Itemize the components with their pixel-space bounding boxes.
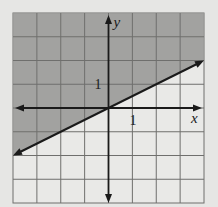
y-axis-label: y (112, 14, 121, 30)
x-axis-label: x (190, 110, 198, 126)
y-unit-tick-label: 1 (95, 77, 102, 92)
inequality-graph: y x 1 1 (0, 0, 218, 207)
x-unit-tick-label: 1 (129, 113, 136, 128)
